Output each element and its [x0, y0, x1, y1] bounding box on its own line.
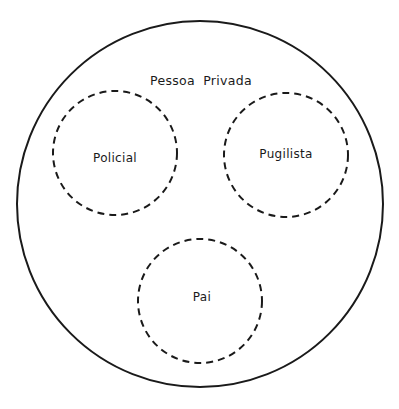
role-label-policial: Policial — [93, 151, 137, 165]
diagram-canvas — [0, 0, 399, 409]
outer-label: Pessoa Privada — [150, 73, 252, 88]
role-label-pugilista: Pugilista — [259, 147, 312, 161]
role-label-pai: Pai — [193, 290, 211, 304]
